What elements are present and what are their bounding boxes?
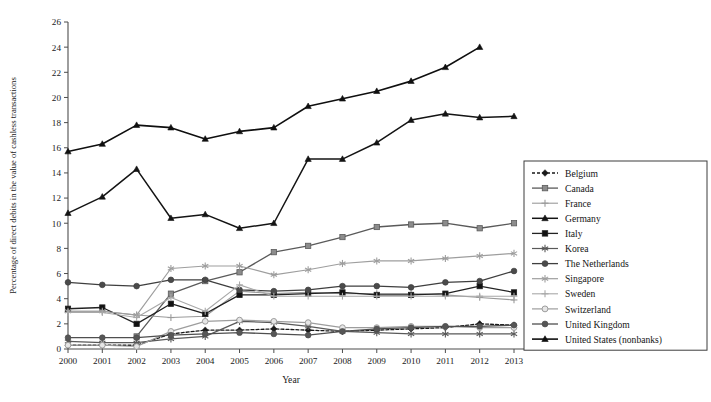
x-tick-label: 2002 bbox=[127, 356, 146, 366]
marker-open-circle bbox=[134, 344, 140, 350]
legend-label: France bbox=[565, 198, 591, 209]
legend-label: Singapore bbox=[565, 273, 604, 284]
marker-square bbox=[542, 185, 547, 190]
y-tick-label: 4 bbox=[56, 294, 61, 304]
marker-triangle bbox=[271, 220, 277, 226]
marker-square bbox=[443, 221, 448, 226]
x-tick-label: 2012 bbox=[471, 356, 490, 366]
marker-circle bbox=[511, 268, 517, 274]
marker-plus bbox=[168, 314, 175, 321]
x-tick-label: 2004 bbox=[196, 356, 215, 366]
marker-square bbox=[340, 234, 345, 239]
marker-square bbox=[271, 250, 276, 255]
legend-label: Switzerland bbox=[565, 304, 611, 315]
x-tick-label: 2010 bbox=[402, 356, 421, 366]
marker-plus bbox=[476, 293, 483, 300]
x-tick-label: 2003 bbox=[162, 356, 181, 366]
marker-circle bbox=[443, 324, 449, 330]
legend-label: Sweden bbox=[565, 288, 596, 299]
line-chart: 0246810121416182022242620002001200220032… bbox=[0, 0, 711, 402]
marker-circle bbox=[340, 329, 346, 335]
marker-open-circle bbox=[305, 320, 311, 326]
y-tick-label: 12 bbox=[52, 193, 62, 203]
marker-circle bbox=[99, 282, 105, 288]
series-singapore bbox=[65, 250, 517, 319]
marker-open-circle bbox=[202, 318, 208, 324]
marker-circle bbox=[134, 335, 140, 341]
marker-square bbox=[542, 231, 547, 236]
marker-square bbox=[134, 321, 139, 326]
marker-circle bbox=[65, 335, 71, 341]
marker-circle bbox=[374, 283, 380, 289]
legend-label: United States (nonbanks) bbox=[565, 334, 662, 346]
series-united-states-nonbanks bbox=[65, 44, 483, 154]
marker-circle bbox=[511, 322, 517, 328]
marker-circle bbox=[477, 278, 483, 284]
marker-square bbox=[408, 222, 413, 227]
y-tick-label: 10 bbox=[52, 219, 62, 229]
legend-label: Belgium bbox=[565, 168, 599, 179]
marker-circle bbox=[443, 279, 449, 285]
marker-triangle bbox=[477, 44, 483, 50]
marker-circle bbox=[374, 326, 380, 332]
marker-circle bbox=[237, 330, 243, 336]
series-line bbox=[68, 47, 480, 151]
marker-open-circle bbox=[271, 318, 277, 324]
marker-circle bbox=[168, 332, 174, 338]
y-tick-label: 8 bbox=[56, 244, 61, 254]
y-tick-label: 14 bbox=[52, 168, 62, 178]
legend-label: Korea bbox=[565, 243, 589, 254]
marker-square bbox=[306, 243, 311, 248]
marker-circle bbox=[542, 261, 548, 267]
marker-circle bbox=[340, 283, 346, 289]
legend-label: Germany bbox=[565, 213, 601, 224]
marker-square bbox=[168, 301, 173, 306]
marker-circle bbox=[202, 331, 208, 337]
y-tick-label: 18 bbox=[52, 118, 62, 128]
x-tick-label: 2011 bbox=[436, 356, 454, 366]
x-tick-label: 2013 bbox=[505, 356, 524, 366]
y-tick-label: 20 bbox=[52, 93, 62, 103]
x-tick-label: 2001 bbox=[93, 356, 112, 366]
x-tick-label: 2000 bbox=[59, 356, 78, 366]
x-tick-label: 2007 bbox=[299, 356, 318, 366]
marker-circle bbox=[477, 324, 483, 330]
marker-square bbox=[477, 226, 482, 231]
x-tick-label: 2005 bbox=[230, 356, 249, 366]
marker-open-circle bbox=[65, 342, 71, 348]
marker-circle bbox=[168, 277, 174, 283]
marker-circle bbox=[271, 331, 277, 337]
y-tick-label: 24 bbox=[52, 43, 62, 53]
marker-square bbox=[374, 224, 379, 229]
legend: BelgiumCanadaFranceGermanyItalyKoreaThe … bbox=[524, 161, 707, 350]
marker-square bbox=[511, 221, 516, 226]
legend-label: Canada bbox=[565, 183, 595, 194]
marker-circle bbox=[134, 283, 140, 289]
chart-figure: 0246810121416182022242620002001200220032… bbox=[0, 0, 711, 402]
marker-circle bbox=[202, 277, 208, 283]
series-group bbox=[65, 44, 518, 349]
x-tick-label: 2006 bbox=[265, 356, 284, 366]
series-germany bbox=[65, 111, 517, 231]
marker-circle bbox=[65, 279, 71, 285]
marker-open-circle bbox=[542, 306, 548, 312]
y-tick-label: 26 bbox=[52, 17, 62, 27]
marker-square bbox=[237, 270, 242, 275]
x-axis-title: Year bbox=[282, 374, 300, 385]
x-tick-label: 2009 bbox=[368, 356, 387, 366]
marker-circle bbox=[542, 321, 548, 327]
y-axis-title: Percentage of direct debits in the value… bbox=[8, 77, 18, 294]
marker-circle bbox=[99, 335, 105, 341]
legend-label: United Kingdom bbox=[565, 319, 630, 330]
x-tick-label: 2008 bbox=[333, 356, 352, 366]
marker-open-circle bbox=[99, 342, 105, 348]
series-line bbox=[68, 285, 514, 318]
marker-circle bbox=[305, 332, 311, 338]
marker-open-circle bbox=[237, 317, 243, 323]
marker-circle bbox=[408, 285, 414, 291]
legend-label: Italy bbox=[565, 228, 583, 239]
marker-circle bbox=[305, 287, 311, 293]
marker-triangle bbox=[134, 166, 140, 172]
y-tick-label: 2 bbox=[56, 319, 61, 329]
y-tick-label: 6 bbox=[56, 269, 61, 279]
